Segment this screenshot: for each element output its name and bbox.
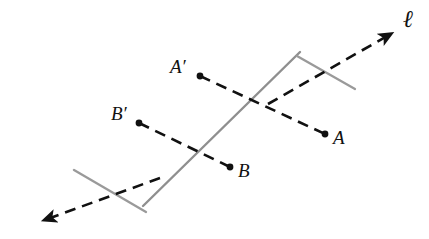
arrow-upper-right xyxy=(268,33,392,104)
segment-b-prime-to-b xyxy=(139,123,230,167)
point-label-b: B xyxy=(238,161,250,180)
line-label-ell: ℓ xyxy=(403,7,413,31)
diagram-canvas xyxy=(0,0,429,239)
point-label-b-prime: B′ xyxy=(111,104,127,123)
point-b-dot xyxy=(227,164,234,171)
point-a-prime-dot xyxy=(197,73,204,80)
point-label-a-prime: A′ xyxy=(170,57,186,76)
point-label-a: A xyxy=(333,128,345,147)
point-b-prime-dot xyxy=(136,120,143,127)
line-ell xyxy=(143,52,300,206)
geometry-diagram: A′ A B′ B ℓ xyxy=(0,0,429,239)
arrow-lower-left xyxy=(43,178,160,220)
point-a-dot xyxy=(322,131,329,138)
tick-mark-upper-right xyxy=(297,56,355,89)
segment-a-prime-to-a xyxy=(200,76,325,134)
